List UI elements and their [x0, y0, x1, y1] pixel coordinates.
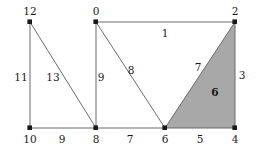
vertex-dot-6	[162, 125, 167, 130]
vertex-label-0: 0	[93, 6, 100, 17]
vertex-label-2: 2	[232, 6, 239, 17]
vertex-label-8: 8	[93, 134, 100, 145]
edge-label-0-2: 1	[162, 28, 169, 39]
vertex-dot-8	[93, 125, 98, 130]
vertex-dot-12	[27, 19, 32, 24]
vertex-label-10: 10	[23, 134, 36, 145]
vertex-label-4: 4	[232, 134, 239, 145]
vertex-label-12: 12	[23, 6, 36, 17]
edge-label-0-8: 9	[98, 72, 105, 83]
graph-figure: 12 0 2 10 8 6 4 11 13 9 9 8 1 7 7 3 5 6	[0, 0, 256, 161]
edge-label-2-4: 3	[239, 70, 246, 81]
edge-12-8	[30, 22, 96, 128]
edge-label-6-4: 5	[197, 134, 204, 145]
vertex-dot-0	[93, 19, 98, 24]
edge-label-8-6: 7	[127, 134, 134, 145]
vertex-label-6: 6	[162, 134, 169, 145]
edge-label-12-8: 13	[46, 72, 59, 83]
vertex-dot-10	[27, 125, 32, 130]
edge-label-6-2: 7	[195, 62, 202, 73]
edge-label-0-6: 8	[128, 65, 135, 76]
edge-label-12-10: 11	[14, 72, 27, 83]
edge-label-10-8: 9	[59, 134, 66, 145]
vertex-dot-4	[232, 125, 237, 130]
face-label-shaded: 6	[211, 87, 218, 98]
vertex-dot-2	[232, 19, 237, 24]
